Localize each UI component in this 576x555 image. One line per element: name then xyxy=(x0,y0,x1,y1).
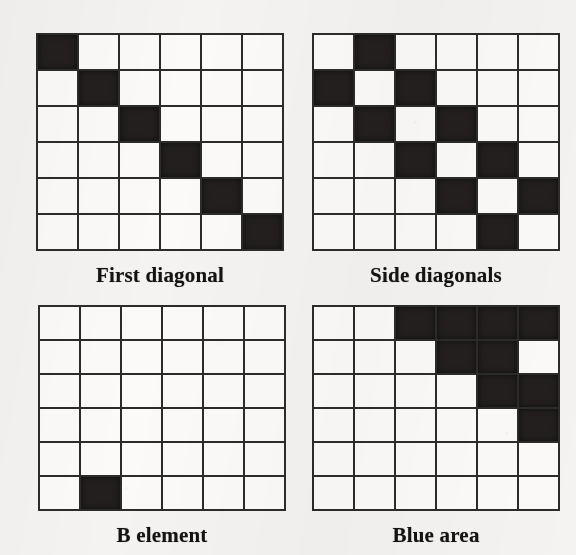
grid-cell-empty xyxy=(355,477,394,509)
grid-cell-empty xyxy=(163,375,202,407)
grid-cell-empty xyxy=(478,179,517,213)
grid-cell-empty xyxy=(122,341,161,373)
grid-cell-empty xyxy=(355,71,394,105)
grid-cell-empty xyxy=(40,375,79,407)
grid-b-element xyxy=(38,305,286,511)
grid-cell-empty xyxy=(396,443,435,475)
grid-cell-empty xyxy=(396,35,435,69)
grid-cell-empty xyxy=(314,215,353,249)
grid-cell-filled xyxy=(478,307,517,339)
grid-cell-empty xyxy=(161,35,200,69)
grid-cell-filled xyxy=(355,35,394,69)
grid-cell-empty xyxy=(478,477,517,509)
grid-cell-empty xyxy=(355,375,394,407)
grid-cell-empty xyxy=(437,409,476,441)
grid-cell-empty xyxy=(202,107,241,141)
grid-cell-empty xyxy=(202,35,241,69)
grid-cell-empty xyxy=(204,443,243,475)
grid-cell-empty xyxy=(120,71,159,105)
grid-cell-empty xyxy=(437,35,476,69)
grid-cell-empty xyxy=(161,71,200,105)
grid-cell-empty xyxy=(478,107,517,141)
grid-cell-empty xyxy=(314,341,353,373)
grid-cell-empty xyxy=(40,409,79,441)
grid-cell-empty xyxy=(519,143,558,177)
grid-cell-empty xyxy=(437,443,476,475)
grid-cell-empty xyxy=(314,107,353,141)
grid-cell-filled xyxy=(437,307,476,339)
grid-cell-filled xyxy=(202,179,241,213)
grid-cell-empty xyxy=(40,443,79,475)
grid-cell-empty xyxy=(122,307,161,339)
grid-cell-empty xyxy=(478,409,517,441)
grid-cell-empty xyxy=(314,179,353,213)
grid-cell-empty xyxy=(355,341,394,373)
grid-cell-empty xyxy=(396,107,435,141)
grid-cell-empty xyxy=(314,375,353,407)
grid-cell-empty xyxy=(519,477,558,509)
grid-cell-empty xyxy=(396,409,435,441)
grid-cell-empty xyxy=(122,409,161,441)
grid-cell-empty xyxy=(204,409,243,441)
caption-b-element: B element xyxy=(116,523,207,548)
grid-side-diagonals xyxy=(312,33,560,251)
grid-cell-empty xyxy=(79,107,118,141)
grid-cell-empty xyxy=(204,375,243,407)
grid-cell-filled xyxy=(478,143,517,177)
panel-b-element: B element xyxy=(38,305,286,548)
grid-cell-empty xyxy=(202,143,241,177)
grid-cell-empty xyxy=(161,215,200,249)
grid-cell-empty xyxy=(79,35,118,69)
grid-cell-filled xyxy=(478,341,517,373)
grid-cell-empty xyxy=(120,215,159,249)
grid-cell-empty xyxy=(519,35,558,69)
grid-cell-empty xyxy=(243,71,282,105)
grid-cell-empty xyxy=(38,143,77,177)
grid-cell-empty xyxy=(163,443,202,475)
grid-cell-empty xyxy=(478,443,517,475)
grid-cell-empty xyxy=(81,409,120,441)
grid-cell-empty xyxy=(396,215,435,249)
grid-cell-empty xyxy=(396,375,435,407)
grid-cell-filled xyxy=(243,215,282,249)
grid-cell-filled xyxy=(478,215,517,249)
grid-cell-filled xyxy=(437,107,476,141)
grid-cell-empty xyxy=(314,307,353,339)
grid-cell-empty xyxy=(81,307,120,339)
grid-cell-empty xyxy=(161,107,200,141)
grid-cell-empty xyxy=(314,443,353,475)
grid-cell-empty xyxy=(79,215,118,249)
grid-cell-filled xyxy=(396,143,435,177)
panel-blue-area: Blue area xyxy=(312,305,560,548)
grid-cell-empty xyxy=(120,35,159,69)
caption-blue-area: Blue area xyxy=(392,523,479,548)
grid-cell-filled xyxy=(314,71,353,105)
grid-cell-empty xyxy=(396,477,435,509)
grid-cell-filled xyxy=(120,107,159,141)
grid-cell-filled xyxy=(519,307,558,339)
grid-cell-empty xyxy=(245,307,284,339)
grid-cell-empty xyxy=(437,375,476,407)
grid-cell-empty xyxy=(245,409,284,441)
grid-cell-empty xyxy=(245,375,284,407)
grid-cell-empty xyxy=(396,179,435,213)
grid-cell-empty xyxy=(202,215,241,249)
grid-cell-empty xyxy=(355,443,394,475)
grid-cell-empty xyxy=(204,341,243,373)
grid-first-diagonal xyxy=(36,33,284,251)
grid-cell-empty xyxy=(120,143,159,177)
grid-cell-filled xyxy=(355,107,394,141)
grid-cell-filled xyxy=(437,341,476,373)
grid-cell-empty xyxy=(437,477,476,509)
grid-cell-empty xyxy=(79,179,118,213)
grid-cell-empty xyxy=(163,341,202,373)
grid-cell-empty xyxy=(243,107,282,141)
grid-cell-empty xyxy=(396,341,435,373)
grid-cell-filled xyxy=(161,143,200,177)
grid-cell-empty xyxy=(519,341,558,373)
grid-cell-empty xyxy=(81,341,120,373)
grid-cell-empty xyxy=(355,179,394,213)
grid-cell-empty xyxy=(245,477,284,509)
grid-cell-empty xyxy=(40,341,79,373)
grid-cell-empty xyxy=(40,307,79,339)
